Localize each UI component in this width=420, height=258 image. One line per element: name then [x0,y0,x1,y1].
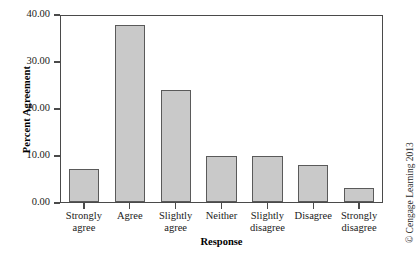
x-label-line: Strongly [336,210,382,222]
x-label-strongly-disagree: Strongly disagree [336,210,382,233]
x-label-line: agree [153,222,199,234]
x-tick [199,203,245,209]
bar-slot [290,16,336,202]
x-label-slightly-disagree: Slightly disagree [244,210,290,233]
x-axis-ticks [61,203,382,209]
bar-chart-figure: 0.00 10.00 20.00 30.00 40.00 [0,0,420,258]
x-tick-mark [267,203,268,209]
bar-slot [61,16,107,202]
y-tick-label: 40.00 [26,8,50,19]
x-label-strongly-agree: Strongly agree [61,210,107,233]
bar-slightly-agree [161,90,191,202]
copyright-credit: © Cengage Learning 2013 [405,63,415,243]
x-axis-labels: Strongly agree Agree Slightly agree Neit… [61,210,382,233]
x-tick-mark [129,203,130,209]
x-tick [107,203,153,209]
x-label-neither: Neither [199,210,245,233]
x-label-line: Slightly [153,210,199,222]
x-label-line: Neither [199,210,245,222]
y-tick-label: 0.00 [32,196,50,207]
bar-agree [115,25,145,202]
x-label-line: Agree [107,210,153,222]
x-tick [61,203,107,209]
bar-slot [107,16,153,202]
x-axis-title: Response [61,236,382,247]
x-label-disagree: Disagree [290,210,336,233]
bar-slot [153,16,199,202]
x-tick [244,203,290,209]
bar-disagree [298,165,328,202]
x-label-line: disagree [244,222,290,234]
bar-slot [244,16,290,202]
bar-slot [199,16,245,202]
x-tick-mark [175,203,176,209]
bar-slot [336,16,382,202]
x-label-line: Disagree [290,210,336,222]
bar-strongly-agree [69,169,99,202]
x-label-line: Slightly [244,210,290,222]
x-tick [290,203,336,209]
x-tick [336,203,382,209]
bar-strongly-disagree [344,188,374,202]
bar-neither [206,156,236,203]
x-label-line: Strongly [61,210,107,222]
x-tick-mark [358,203,359,209]
x-tick-mark [221,203,222,209]
x-label-agree: Agree [107,210,153,233]
x-label-line: agree [61,222,107,234]
x-tick-mark [83,203,84,209]
x-label-line: disagree [336,222,382,234]
y-axis-title: Percent Agreement [21,40,32,180]
x-label-slightly-agree: Slightly agree [153,210,199,233]
x-tick [153,203,199,209]
bar-slightly-disagree [252,156,282,203]
x-tick-mark [313,203,314,209]
bar-series [61,16,382,202]
